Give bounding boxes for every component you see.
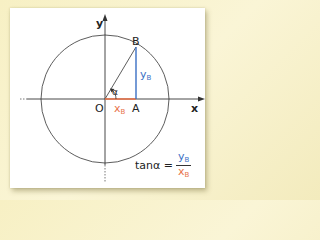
point-A-label: A [132, 103, 140, 114]
xB-label: xB [114, 103, 125, 116]
y-axis-arrow-icon [103, 14, 108, 21]
x-axis-arrow-icon [198, 97, 205, 102]
yB-label: yB [140, 69, 151, 82]
unit-circle-diagram [0, 0, 226, 200]
segment-OB [105, 47, 136, 99]
point-B-label: B [132, 36, 140, 47]
formula-fraction: yB xB [176, 151, 191, 179]
y-axis-label: y [96, 18, 103, 29]
x-axis-label: x [191, 103, 198, 114]
formula-denominator: xB [176, 165, 191, 179]
tangent-formula: tanα = yB xB [135, 150, 191, 180]
formula-numerator: yB [176, 151, 191, 164]
formula-lhs: tanα = [135, 159, 173, 172]
alpha-label: α [112, 88, 118, 97]
origin-label: O [95, 103, 104, 114]
